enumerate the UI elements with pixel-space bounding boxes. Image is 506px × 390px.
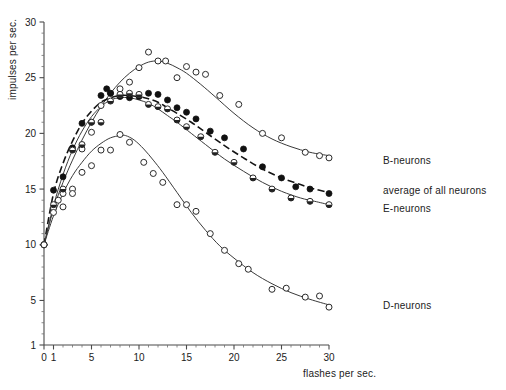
data-point-open — [160, 179, 166, 185]
data-point-filled — [184, 109, 190, 115]
data-point-filled — [60, 174, 66, 180]
data-point-half-filled — [98, 119, 104, 125]
data-point-half-filled — [89, 119, 95, 125]
data-point-open — [260, 130, 266, 136]
x-tick-label: 5 — [89, 352, 95, 363]
data-point-open — [326, 304, 332, 310]
neuron-response-chart: 0151015202530 151015202530 B-neuronsaver… — [0, 0, 506, 390]
data-point-open — [150, 170, 156, 176]
data-point-filled — [51, 187, 57, 193]
data-point-half-filled — [70, 147, 76, 153]
data-point-half-filled — [269, 186, 275, 192]
x-tick-label: 20 — [228, 352, 240, 363]
data-point-open — [203, 71, 209, 77]
data-point-open — [146, 49, 152, 55]
data-point-open — [236, 101, 242, 107]
data-point-open — [193, 69, 199, 75]
data-point-half-filled — [51, 202, 57, 208]
data-point-half-filled — [288, 195, 294, 201]
data-point-open — [317, 153, 323, 159]
data-point-half-filled — [212, 149, 218, 155]
data-point-open — [55, 197, 61, 203]
data-point-open — [279, 135, 285, 141]
data-point-open — [207, 231, 213, 237]
data-point-open — [89, 163, 95, 169]
data-point-half-filled — [250, 175, 256, 181]
x-tick-label: 15 — [181, 352, 193, 363]
x-tick-label: 10 — [133, 352, 145, 363]
data-point-filled — [146, 90, 152, 96]
data-point-open — [127, 139, 133, 145]
data-point-open — [326, 155, 332, 161]
data-point-half-filled — [146, 101, 152, 107]
data-point-open — [60, 204, 66, 210]
data-point-half-filled — [108, 98, 114, 104]
data-point-filled — [174, 105, 180, 111]
data-point-open — [184, 202, 190, 208]
data-point-filled — [165, 97, 171, 103]
data-point-open — [108, 147, 114, 153]
data-point-open — [236, 261, 242, 267]
y-axis-title: impulses per sec. — [7, 19, 18, 100]
data-point-filled — [193, 116, 199, 122]
y-tick-label: 20 — [25, 128, 37, 139]
data-point-half-filled — [60, 186, 66, 192]
y-tick-label: 30 — [25, 17, 37, 28]
y-tick-label: 10 — [25, 239, 37, 250]
series-label-average-of-all-neurons: average of all neurons — [383, 185, 486, 196]
data-point-open — [79, 169, 85, 175]
data-point-open — [127, 79, 133, 85]
data-point-open — [184, 64, 190, 70]
data-point-open — [155, 58, 161, 64]
data-point-filled — [293, 184, 299, 190]
data-point-open — [117, 131, 123, 137]
data-point-half-filled — [198, 134, 204, 140]
y-tick-label: 25 — [25, 72, 37, 83]
x-tick-label: 0 — [41, 352, 47, 363]
data-point-open — [302, 149, 308, 155]
data-point-half-filled — [307, 198, 313, 204]
data-point-open — [269, 286, 275, 292]
data-point-filled — [279, 175, 285, 181]
data-point-filled — [108, 90, 114, 96]
series-label-E-neurons: E-neurons — [383, 203, 431, 214]
data-point-open — [163, 58, 169, 64]
y-tick-label: 5 — [30, 295, 36, 306]
data-point-open — [98, 147, 104, 153]
x-tick-label: 30 — [323, 352, 335, 363]
data-point-filled — [155, 91, 161, 97]
data-point-half-filled — [184, 124, 190, 130]
data-point-half-filled — [127, 90, 133, 96]
data-point-open — [70, 191, 76, 197]
data-point-open — [98, 103, 104, 109]
data-point-filled — [241, 146, 247, 152]
data-point-half-filled — [165, 106, 171, 112]
data-point-half-filled — [136, 91, 142, 97]
data-point-filled — [98, 93, 104, 99]
data-point-open — [283, 285, 289, 291]
series-label-D-neurons: D-neurons — [383, 300, 432, 311]
data-point-open — [89, 129, 95, 135]
data-point-open — [245, 266, 251, 272]
y-tick-label: 1 — [30, 340, 36, 351]
data-point-half-filled — [117, 91, 123, 97]
data-point-open — [136, 65, 142, 71]
data-point-filled — [307, 186, 313, 192]
data-point-filled — [326, 191, 332, 197]
data-point-filled — [222, 135, 228, 141]
data-point-open — [302, 294, 308, 300]
data-point-half-filled — [155, 104, 161, 110]
data-point-open — [317, 293, 323, 299]
data-point-filled — [79, 120, 85, 126]
series-label-B-neurons: B-neurons — [383, 155, 431, 166]
data-point-open — [174, 202, 180, 208]
x-tick-label: 25 — [276, 352, 288, 363]
data-point-open — [217, 93, 223, 99]
data-point-half-filled — [326, 202, 332, 208]
y-tick-label: 15 — [25, 184, 37, 195]
data-point-half-filled — [174, 117, 180, 123]
data-point-open — [193, 208, 199, 214]
data-point-open — [174, 75, 180, 81]
data-point-open — [41, 242, 47, 248]
data-point-open — [141, 159, 147, 165]
